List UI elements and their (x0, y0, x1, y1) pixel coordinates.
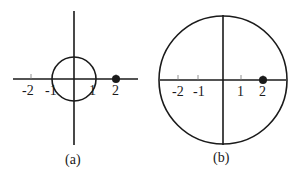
marked-point-a (112, 75, 120, 83)
figure: -2 -1 1 2 (a) -2 -1 1 2 (b) (0, 0, 296, 177)
tick-label-a-neg2: -2 (22, 83, 34, 98)
tick-label-a-pos1: 1 (89, 83, 96, 98)
tick-label-b-pos1: 1 (237, 84, 244, 99)
marked-point-b (259, 76, 267, 84)
tick-label-a-pos2: 2 (112, 83, 119, 98)
panel-b: -2 -1 1 2 (b) (159, 15, 287, 166)
tick-label-b-neg1: -1 (193, 84, 205, 99)
tick-label-b-neg2: -2 (172, 84, 184, 99)
panel-a: -2 -1 1 2 (a) (13, 11, 138, 168)
tick-label-b-pos2: 2 (259, 84, 266, 99)
caption-b: (b) (213, 150, 230, 166)
caption-a: (a) (65, 152, 81, 168)
tick-label-a-neg1: -1 (45, 83, 57, 98)
